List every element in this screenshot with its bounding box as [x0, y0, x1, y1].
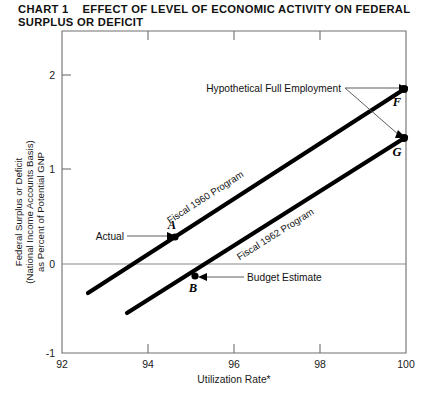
- series-label-fiscal-1962: Fiscal 1962 Program: [235, 206, 316, 262]
- annotation-budget-estimate-leader: [198, 273, 244, 281]
- y-axis-title-line3: as Percent of Potential GNP: [35, 152, 46, 272]
- x-tick-label-1: 94: [142, 358, 154, 370]
- x-tick-label-4: 100: [397, 358, 415, 370]
- bottom-axis-ticks: [148, 344, 320, 353]
- data-point-label-a: A: [167, 218, 176, 232]
- y-tick-label-neg1: -1: [46, 347, 55, 359]
- data-point-label-f: F: [392, 95, 402, 109]
- y-axis-title-line2: (National Income Accounts Basis): [24, 140, 35, 283]
- y-axis-title-line1: Federal Surplus or Deficit: [13, 158, 24, 267]
- series-line-fiscal-1960: [88, 88, 406, 293]
- x-tick-label-0: 92: [56, 358, 68, 370]
- annotation-budget-estimate-label: Budget Estimate: [247, 272, 322, 283]
- y-axis-title: Federal Surplus or Deficit (National Inc…: [13, 140, 46, 283]
- chart-container: CHART 1EFFECT OF LEVEL OF ECONOMIC ACTIV…: [0, 0, 424, 400]
- y-tick-label-0: 0: [49, 258, 55, 270]
- y-tick-label-1: 1: [49, 163, 55, 175]
- y-tick-label-2: 2: [49, 69, 55, 81]
- x-tick-label-2: 96: [228, 358, 240, 370]
- x-axis-title: Utilization Rate*: [197, 374, 270, 385]
- x-tick-label-3: 98: [314, 358, 326, 370]
- annotation-actual-label: Actual: [96, 231, 124, 242]
- data-point-b: [191, 272, 198, 279]
- plot-frame: [62, 31, 406, 353]
- data-point-label-b: B: [188, 281, 197, 295]
- annotation-actual-leader: [127, 232, 176, 240]
- y-axis-ticks: [62, 75, 71, 169]
- chart-plot: 92 94 96 98 100 2 1 0 -1 Federal Surplus…: [0, 0, 424, 400]
- data-point-label-g: G: [392, 145, 401, 159]
- annotation-hypothetical-label: Hypothetical Full Employment: [206, 83, 341, 94]
- top-axis-ticks: [148, 31, 320, 40]
